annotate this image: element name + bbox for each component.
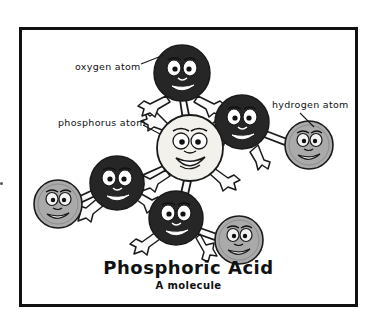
label-phosphorus-atom: phosphorus atom (58, 117, 146, 128)
label-oxygen-atom: oxygen atom (75, 61, 141, 72)
atom-oxygen-top (154, 45, 210, 101)
label-hydrogen-atom: hydrogen atom (272, 99, 349, 110)
atom-oxygen-bottom (149, 191, 203, 245)
atom-hydrogen-left (34, 180, 82, 228)
atom-oxygen-left (90, 156, 144, 210)
figure-subtitle: A molecule (19, 280, 358, 291)
atom-hydrogen-right (285, 121, 333, 169)
atom-phosphorus-center (157, 115, 223, 181)
figure-title: Phosphoric Acid (19, 257, 358, 278)
limb-p-lower-right (210, 168, 240, 191)
bond-o2-h1 (264, 131, 287, 145)
limb-o2-right (250, 145, 270, 170)
limb-o1-left (138, 96, 170, 117)
figure-canvas: oxygen atom phosphorus atom hydrogen ato… (0, 0, 372, 325)
